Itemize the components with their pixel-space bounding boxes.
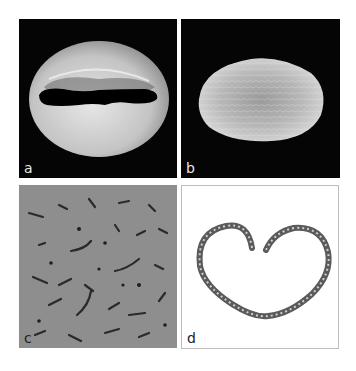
surface-texture-image xyxy=(19,185,177,348)
panel-d-heart-section: d xyxy=(181,185,339,349)
panel-b-pollen-grain: b xyxy=(181,19,340,178)
panel-label-b: b xyxy=(186,161,195,175)
pollen-grain-a-image xyxy=(19,19,177,178)
panel-label-a: a xyxy=(24,161,33,175)
panel-label-c: c xyxy=(24,331,32,345)
pollen-grain-b-image xyxy=(181,19,340,178)
heart-outline-image xyxy=(182,186,338,348)
panel-c-surface-texture: c xyxy=(19,185,177,348)
panel-label-d: d xyxy=(187,331,196,345)
panel-a-pollen-aperture: a xyxy=(19,19,177,178)
